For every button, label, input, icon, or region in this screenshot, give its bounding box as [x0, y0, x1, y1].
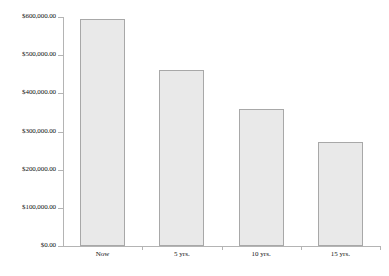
chart-title [0, 0, 389, 1]
y-axis-tick-label: $600,000.00 [22, 13, 56, 20]
y-axis-labels: $0.00$100,000.00$200,000.00$300,000.00$4… [0, 0, 56, 276]
y-axis-tick-label: $300,000.00 [22, 128, 56, 135]
y-axis-tick-label: $400,000.00 [22, 89, 56, 96]
y-axis-tick-mark [58, 17, 63, 18]
x-axis-tick-label: 15 yrs. [301, 250, 380, 258]
y-axis-tick-mark [58, 170, 63, 171]
y-axis-tick-mark [58, 132, 63, 133]
y-axis-tick-mark [58, 93, 63, 94]
bar [159, 70, 204, 246]
x-axis-tick-label: 10 yrs. [222, 250, 301, 258]
x-axis-tick-mark [380, 246, 381, 250]
y-axis-tick-mark [58, 55, 63, 56]
bar [318, 142, 363, 246]
bar [239, 109, 284, 246]
y-axis-tick-label: $200,000.00 [22, 166, 56, 173]
bar [80, 19, 125, 246]
x-axis-tick-label: 5 yrs. [142, 250, 221, 258]
x-axis-tick-label: Now [63, 250, 142, 258]
y-axis-tick-label: $100,000.00 [22, 204, 56, 211]
y-axis-tick-mark [58, 246, 63, 247]
plot-area [63, 17, 380, 246]
y-axis-tick-label: $500,000.00 [22, 51, 56, 58]
y-axis-tick-mark [58, 208, 63, 209]
bar-chart: $0.00$100,000.00$200,000.00$300,000.00$4… [0, 0, 389, 276]
y-axis-tick-label: $0.00 [41, 242, 56, 249]
